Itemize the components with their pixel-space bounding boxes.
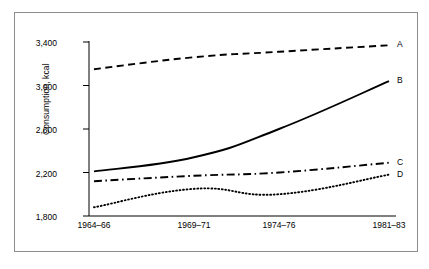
series-b-line bbox=[94, 81, 389, 171]
x-tick-label-2: 1969–71 bbox=[164, 220, 224, 230]
series-label-d: D bbox=[397, 169, 403, 179]
series-d-line bbox=[94, 175, 389, 208]
chart-frame: Consumption, kcal 3,400 3,000 2,600 2,20… bbox=[14, 12, 418, 252]
series-label-b: B bbox=[397, 75, 403, 85]
series-a-line bbox=[94, 45, 389, 69]
x-tick-label-4: 1981–83 bbox=[359, 220, 419, 230]
y-tick-label-3000: 3,000 bbox=[17, 82, 57, 92]
y-tick-label-2200: 2,200 bbox=[17, 169, 57, 179]
chart-figure: Consumption, kcal 3,400 3,000 2,600 2,20… bbox=[0, 0, 429, 269]
plot-area bbox=[15, 13, 419, 253]
x-tick-label-1: 1964–66 bbox=[64, 220, 124, 230]
y-tick-label-1800: 1,800 bbox=[17, 212, 57, 222]
y-tick-label-3400: 3,400 bbox=[17, 38, 57, 48]
series-label-a: A bbox=[397, 39, 403, 49]
y-tick-label-2600: 2,600 bbox=[17, 125, 57, 135]
x-tick-label-3: 1974–76 bbox=[249, 220, 309, 230]
series-label-c: C bbox=[397, 157, 403, 167]
